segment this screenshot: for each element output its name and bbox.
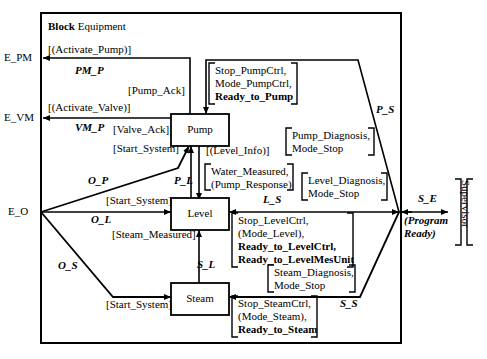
group-line: (Mode_Level),: [238, 227, 354, 240]
port-e-o[interactable]: E_O: [8, 205, 28, 217]
group-steam-diagnosis: Steam_Diagnosis, Mode_Stop: [274, 266, 354, 292]
group-line: Water_Measured,: [211, 165, 292, 178]
channel-pm-p: PM_P: [75, 64, 104, 76]
group-line: Mode_Stop: [308, 187, 385, 200]
signal-valve-ack: [Valve_Ack]: [113, 123, 169, 135]
program-ready-line2: Ready): [404, 227, 448, 240]
group-pump-diagnosis: Pump_Diagnosis, Mode_Stop: [292, 129, 370, 155]
signal-steam-measured: [Steam_Measured]: [112, 228, 196, 240]
supervisor-block[interactable]: Supervisor: [460, 180, 472, 228]
channel-p-l: P_L: [174, 174, 193, 186]
channel-o-s: O_S: [58, 259, 78, 271]
signal-level-info: [(Level_Info)]: [206, 144, 270, 156]
channel-s-l: S_L: [197, 258, 215, 270]
group-line: Ready_to_Pump: [215, 90, 293, 103]
level-block-label: Level: [171, 208, 229, 219]
diagram-title-rest: Equipment: [75, 20, 126, 32]
group-line: Level_Diagnosis,: [308, 174, 385, 187]
signal-activate-pump: [(Activate_Pump)]: [48, 43, 131, 55]
signal-start-system-level: [Start_System]: [106, 194, 172, 206]
block-equipment-diagram: Block Equipment E_PM E_VM E_O Supervisor…: [0, 0, 487, 359]
signal-pump-ack: [Pump_Ack]: [128, 84, 185, 96]
channel-s-s: S_S: [340, 297, 358, 309]
program-ready-line1: (Program: [404, 214, 448, 227]
pump-block-label: Pump: [171, 124, 229, 135]
group-pump-ctrl: Stop_PumpCtrl, Mode_PumpCtrl, Ready_to_P…: [215, 64, 293, 103]
group-line: Pump_Diagnosis,: [292, 129, 370, 142]
group-line: Ready_to_LevelMesUnit: [238, 253, 354, 266]
signal-program-ready: (Program Ready): [404, 214, 448, 240]
steam-block-label: Steam: [171, 293, 229, 304]
diagram-title: Block Equipment: [48, 20, 126, 32]
channel-p-s: P_S: [376, 103, 394, 115]
group-steam-ctrl: Stop_SteamCtrl, (Mode_Steam), Ready_to_S…: [238, 297, 317, 336]
group-line: Ready_to_Steam: [238, 323, 317, 336]
group-line: (Pump_Response): [211, 178, 292, 191]
group-line: Stop_SteamCtrl,: [238, 297, 317, 310]
group-line: Ready_to_LevelCtrl,: [238, 240, 354, 253]
group-water-measured: Water_Measured, (Pump_Response): [211, 165, 292, 191]
group-line: Steam_Diagnosis,: [274, 266, 354, 279]
signal-activate-valve: [(Activate_Valve)]: [48, 101, 130, 113]
channel-s-e: S_E: [418, 192, 437, 204]
group-level-diagnosis: Level_Diagnosis, Mode_Stop: [308, 174, 385, 200]
signal-start-system-steam: [Start_System]: [106, 298, 172, 310]
group-line: Mode_Stop: [292, 142, 370, 155]
group-line: Mode_PumpCtrl,: [215, 77, 293, 90]
diagram-title-bold: Block: [48, 20, 75, 32]
channel-vm-p: VM_P: [75, 121, 104, 133]
port-e-vm[interactable]: E_VM: [4, 111, 34, 123]
group-line: Stop_LevelCtrl,: [238, 214, 354, 227]
channel-o-l: O_L: [91, 213, 111, 225]
group-line: Stop_PumpCtrl,: [215, 64, 293, 77]
channel-o-p: O_P: [88, 174, 108, 186]
group-level-ctrl: Stop_LevelCtrl, (Mode_Level), Ready_to_L…: [238, 214, 354, 266]
group-line: Mode_Stop: [274, 279, 354, 292]
signal-start-system-pump: [Start_System]: [113, 142, 179, 154]
port-e-pm[interactable]: E_PM: [4, 51, 32, 63]
group-line: (Mode_Steam),: [238, 310, 317, 323]
channel-l-s: L_S: [263, 193, 281, 205]
